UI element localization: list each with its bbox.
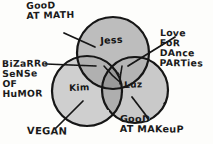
annotation-vegan: VEGAN xyxy=(27,126,68,138)
set-label-jess: Jess xyxy=(100,35,123,46)
annotation-good-at-math: GooD AT MATH xyxy=(26,0,75,21)
annotation-bizarre-sense-of-humor: BiZaRRe SeNSe OF HuMOR xyxy=(2,58,49,99)
set-label-luz: Luz xyxy=(124,80,143,90)
annotation-love-for-dance-parties: Love FoR DAnce PARTies xyxy=(160,28,204,69)
venn-diagram-canvas: Jess Kim Luz GooD AT MATH BiZaRRe SeNSe … xyxy=(0,0,213,144)
set-label-kim: Kim xyxy=(69,83,90,93)
annotation-good-at-makeup: GooD AT MAKeuP xyxy=(120,114,184,135)
venn-fills xyxy=(52,17,168,126)
